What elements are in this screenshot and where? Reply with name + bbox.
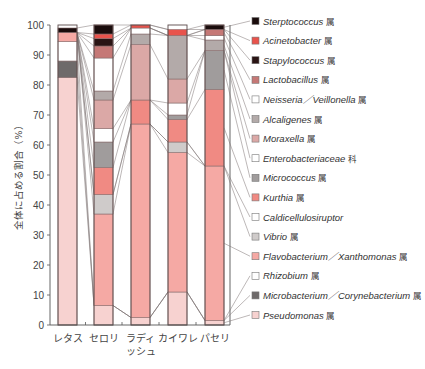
connector-line — [187, 25, 205, 30]
bar-segment — [131, 100, 150, 124]
legend-leader-line — [224, 38, 250, 100]
bar-2 — [94, 25, 113, 325]
connector-line — [150, 100, 168, 115]
y-tick-label: 0 — [38, 320, 44, 331]
y-tick-label: 10 — [33, 290, 45, 301]
y-tick-label: 70 — [33, 110, 45, 121]
bar-segment — [131, 124, 150, 318]
bar-segment — [58, 42, 77, 62]
bar-segment — [94, 168, 113, 195]
legend-leader-line — [224, 30, 250, 41]
connector-line — [77, 33, 94, 47]
legend-label: Stapylococcus 属 — [263, 55, 336, 66]
legend-leader-line — [224, 166, 250, 217]
legend-swatch — [252, 253, 259, 260]
y-tick-label: 30 — [33, 230, 45, 241]
legend-swatch — [252, 194, 259, 201]
legend-item: Pseudomonas 属 — [224, 310, 335, 323]
legend-leader-line — [224, 51, 250, 139]
connector-line — [187, 36, 205, 41]
legend-label: Lactobacillus 属 — [263, 74, 330, 85]
legend-swatch — [252, 233, 259, 240]
legend-label: Microbacterium／Corynebacterium 属 — [263, 290, 422, 301]
legend-swatch — [252, 135, 259, 142]
x-category-label: ッシュ — [126, 346, 156, 357]
bar-segment — [131, 28, 150, 34]
legend-item: Sterptococcus 属 — [224, 16, 335, 28]
connector-line — [150, 45, 168, 80]
connector-line — [77, 33, 94, 101]
y-tick-label: 90 — [33, 50, 45, 61]
legend-swatch — [252, 116, 259, 123]
legend-swatch — [252, 292, 259, 299]
bar-segment — [168, 142, 187, 153]
bar-segment — [58, 61, 77, 78]
bar-segment — [168, 292, 187, 325]
legend-leader-line — [224, 295, 250, 320]
bar-segment — [168, 103, 187, 115]
legend-label: Sterptococcus 属 — [263, 16, 335, 27]
legend-item: Enterobacteriaceae 科 — [224, 51, 357, 164]
legend-swatch — [252, 18, 259, 25]
legend-item: Acinetobacter 属 — [224, 30, 333, 47]
legend-label: Neisseria／Veillonella 属 — [263, 94, 367, 105]
connector-line — [150, 124, 168, 153]
bar-segment — [94, 46, 113, 58]
connector-line — [187, 292, 205, 321]
bar-segment — [168, 115, 187, 120]
x-category-label: セロリ — [89, 333, 119, 344]
legend-leader-line — [224, 243, 250, 256]
legend-swatch — [252, 57, 259, 64]
legend-item: Micrococcus 属 — [224, 70, 328, 183]
connector-line — [113, 124, 131, 214]
legend-label: Kurthia 属 — [263, 192, 305, 203]
connector-line — [187, 51, 205, 116]
connector-line — [150, 124, 168, 142]
bar-segment — [94, 25, 113, 34]
bar-segment — [205, 25, 224, 30]
connector-line — [187, 30, 205, 36]
bar-segment — [205, 36, 224, 41]
connector-line — [187, 51, 205, 80]
legend-label: Moraxella 属 — [263, 133, 316, 144]
connector-line — [150, 25, 168, 30]
legend-swatch — [252, 96, 259, 103]
connector-line — [77, 25, 94, 28]
legend-swatch — [252, 312, 259, 319]
bar-segment — [131, 45, 150, 101]
y-tick-label: 50 — [33, 170, 45, 181]
legend-swatch — [252, 214, 259, 221]
legend-label: Alcaligenes 属 — [262, 114, 323, 125]
bar-segment — [94, 306, 113, 326]
legend-label: Vibrio 属 — [263, 231, 299, 242]
bar-segment — [168, 153, 187, 293]
legend-swatch — [252, 272, 259, 279]
legend: Sterptococcus 属Acinetobacter 属Stapylococ… — [224, 16, 422, 323]
legend-item: Flavobacterium／Xanthomonas 属 — [224, 243, 408, 261]
stacked-bar-chart: 0102030405060708090100レタスセロリラディッシュカイワレパセ… — [0, 0, 425, 369]
y-axis-label: 全体に占める割合（%） — [13, 120, 24, 229]
connector-line — [150, 292, 168, 318]
bar-segment — [94, 142, 113, 168]
bar-segment — [94, 91, 113, 100]
connector-line — [113, 45, 131, 101]
bar-segment — [205, 30, 224, 36]
legend-leader-line — [224, 70, 250, 178]
y-tick-label: 80 — [33, 80, 45, 91]
legend-leader-line — [224, 315, 250, 323]
x-category-label: レタス — [53, 333, 83, 344]
legend-label: Micrococcus 属 — [263, 172, 328, 183]
bar-segment — [131, 318, 150, 326]
bar-segment — [94, 129, 113, 143]
bar-segment — [168, 120, 187, 143]
bar-1 — [58, 25, 77, 325]
legend-leader-line — [224, 276, 250, 321]
legend-swatch — [252, 76, 259, 83]
legend-label: Flavobacterium／Xanthomonas 属 — [263, 251, 408, 262]
y-tick-label: 100 — [27, 20, 44, 31]
legend-label: Pseudomonas 属 — [263, 310, 335, 321]
bar-segment — [58, 28, 77, 33]
connector-line — [187, 51, 205, 104]
bar-segment — [205, 90, 224, 167]
legend-swatch — [252, 174, 259, 181]
